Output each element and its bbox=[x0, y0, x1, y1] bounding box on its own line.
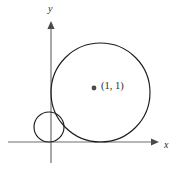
y-axis-label: y bbox=[48, 4, 52, 14]
large-circle bbox=[51, 43, 150, 142]
center-point-dot bbox=[92, 86, 97, 91]
small-circle bbox=[34, 112, 64, 142]
x-axis-arrow-icon bbox=[151, 138, 159, 145]
geometry-figure: y x (1, 1) bbox=[0, 0, 179, 173]
x-axis-label: x bbox=[164, 140, 168, 150]
y-axis-arrow-icon bbox=[47, 21, 54, 29]
figure-canvas bbox=[0, 0, 179, 173]
center-point-label: (1, 1) bbox=[101, 81, 124, 92]
